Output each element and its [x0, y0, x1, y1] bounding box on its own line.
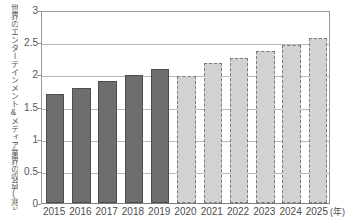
- x-axis-tick-label-2018: 2018: [120, 206, 146, 218]
- bar-chart-figure: 世界のエンターテインメント&メディア業界の収益(兆ドル) 00.511.522.…: [0, 0, 345, 224]
- bar-2019: [151, 69, 169, 203]
- bar-2016: [72, 88, 90, 203]
- bar-2022: [230, 58, 248, 203]
- x-axis-tick-label-2020: 2020: [172, 206, 198, 218]
- y-axis-tick-label: 0.5: [14, 167, 38, 177]
- y-axis-tick-mark: [37, 204, 41, 205]
- x-axis-tick-label-2015: 2015: [41, 206, 67, 218]
- y-axis-tick-label: 1.5: [14, 103, 38, 113]
- bar-2021: [204, 63, 222, 203]
- x-axis-tick-label-2021: 2021: [199, 206, 225, 218]
- bar-2025: [309, 38, 327, 203]
- x-axis-tick-label-2024: 2024: [277, 206, 303, 218]
- bar-2015: [46, 94, 64, 203]
- y-axis-tick-label: 1: [14, 135, 38, 145]
- x-axis-tick-label-2022: 2022: [225, 206, 251, 218]
- bar-2017: [98, 81, 116, 203]
- bar-2018: [125, 75, 143, 203]
- y-axis-tick-label: 2: [14, 70, 38, 80]
- x-axis-tick-label-2025: 2025: [304, 206, 330, 218]
- y-axis-tick-label: 3: [14, 6, 38, 16]
- y-axis-tick-labels: 00.511.522.53: [12, 0, 38, 224]
- plot-area: [41, 11, 330, 204]
- y-axis-tick-label: 0: [14, 199, 38, 209]
- x-axis-tick-label-2019: 2019: [146, 206, 172, 218]
- y-axis-tick-label: 2.5: [14, 38, 38, 48]
- bar-2024: [282, 45, 300, 203]
- x-axis-tick-labels: 2015201620172018201920202021202220232024…: [41, 206, 330, 220]
- x-axis-tick-label-2023: 2023: [251, 206, 277, 218]
- x-axis-unit-label: (年): [330, 206, 345, 218]
- bars-group: [42, 12, 329, 203]
- x-axis-tick-label-2016: 2016: [67, 206, 93, 218]
- x-axis-tick-label-2017: 2017: [94, 206, 120, 218]
- bar-2023: [256, 51, 274, 203]
- bar-2020: [177, 76, 195, 203]
